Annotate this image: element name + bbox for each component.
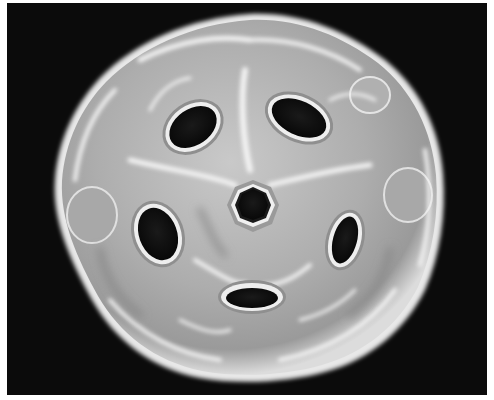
hole-bottom <box>218 280 286 314</box>
image-frame <box>7 3 487 395</box>
right-knob <box>384 168 432 222</box>
left-knob <box>67 187 117 243</box>
cage-sphere-render <box>7 3 487 395</box>
